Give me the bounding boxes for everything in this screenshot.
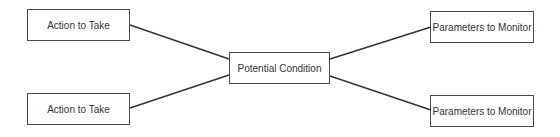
action-node-top: Action to Take — [27, 9, 130, 41]
monitor-label: Parameters to Monitor — [433, 106, 532, 117]
connector-left-top — [130, 25, 229, 59]
connector-left-bottom — [130, 75, 229, 108]
action-label: Action to Take — [47, 20, 110, 31]
action-label: Action to Take — [47, 104, 110, 115]
monitor-node-bottom: Parameters to Monitor — [430, 95, 534, 127]
action-node-bottom: Action to Take — [27, 93, 130, 125]
connector-right-top — [330, 27, 431, 59]
connector-right-bottom — [330, 76, 431, 110]
monitor-label: Parameters to Monitor — [433, 22, 532, 33]
diagram-canvas: Action to Take Action to Take Potential … — [0, 0, 560, 137]
condition-label: Potential Condition — [238, 63, 322, 74]
condition-node: Potential Condition — [229, 52, 330, 84]
monitor-node-top: Parameters to Monitor — [430, 11, 534, 43]
